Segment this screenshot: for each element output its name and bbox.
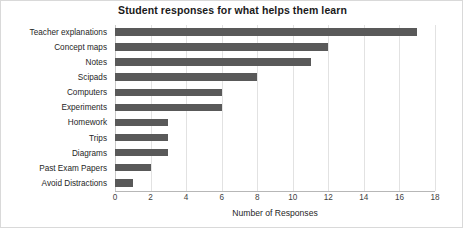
y-axis-label: Trips (1, 131, 111, 146)
plot-area (115, 25, 435, 191)
bar-row (115, 55, 435, 70)
y-axis-category-labels: Teacher explanationsConcept mapsNotesSci… (1, 25, 111, 191)
x-tick-label: 0 (113, 193, 118, 202)
bar-row (115, 161, 435, 176)
x-tick-label: 16 (395, 193, 404, 202)
y-axis-label: Notes (1, 55, 111, 70)
y-axis-label: Diagrams (1, 146, 111, 161)
bar-row (115, 70, 435, 85)
bar (115, 164, 151, 172)
x-tick-label: 12 (324, 193, 333, 202)
bar (115, 28, 417, 36)
bar (115, 149, 168, 157)
bar-row (115, 85, 435, 100)
x-tick-label: 18 (430, 193, 439, 202)
bar-row (115, 100, 435, 115)
x-tick-label: 4 (184, 193, 189, 202)
y-axis-label: Past Exam Papers (1, 161, 111, 176)
bar-row (115, 115, 435, 130)
bar-row (115, 146, 435, 161)
bar-row (115, 131, 435, 146)
x-tick-label: 8 (255, 193, 260, 202)
bar (115, 119, 168, 127)
x-tick-label: 6 (219, 193, 224, 202)
x-tick-label: 10 (288, 193, 297, 202)
x-tick-label: 14 (359, 193, 368, 202)
bar-chart-figure: Student responses for what helps them le… (0, 0, 463, 228)
y-axis-label: Scipads (1, 70, 111, 85)
x-axis-tick-labels: 024681012141618 (115, 193, 435, 206)
bar (115, 179, 133, 187)
y-axis-label: Avoid Distractions (1, 176, 111, 191)
bar (115, 58, 311, 66)
x-axis-line (115, 191, 435, 192)
bar (115, 134, 168, 142)
bar-row (115, 176, 435, 191)
bar-row (115, 25, 435, 40)
bars-container (115, 25, 435, 191)
chart-title: Student responses for what helps them le… (1, 4, 463, 16)
y-axis-label: Homework (1, 115, 111, 130)
y-axis-label: Concept maps (1, 40, 111, 55)
gridline-18 (435, 25, 436, 191)
x-tick-label: 2 (148, 193, 153, 202)
y-axis-label: Computers (1, 85, 111, 100)
bar (115, 73, 257, 81)
y-axis-label: Teacher explanations (1, 25, 111, 40)
x-axis-title: Number of Responses (115, 208, 435, 218)
y-axis-label: Experiments (1, 100, 111, 115)
bar (115, 104, 222, 112)
bar (115, 43, 328, 51)
bar (115, 89, 222, 97)
bar-row (115, 40, 435, 55)
